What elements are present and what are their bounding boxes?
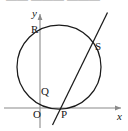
point-label-r: R [31, 24, 38, 35]
point-label-q: Q [41, 86, 49, 97]
origin-label: O [33, 109, 41, 120]
x-axis-label: x [117, 111, 122, 122]
point-label-s: S [95, 41, 101, 52]
circle [17, 25, 101, 109]
y-axis-label: y [32, 8, 37, 19]
geometry-figure: —— ——— ——— y x O R S Q P [0, 0, 128, 131]
point-label-p: P [61, 109, 67, 120]
